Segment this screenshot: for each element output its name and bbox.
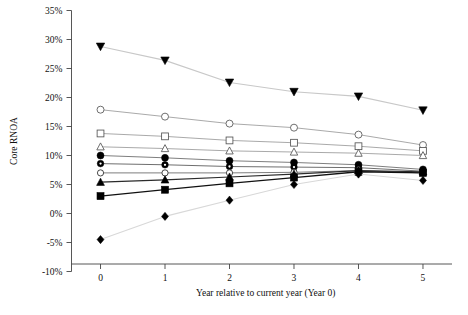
y-tick-label: 20%	[45, 93, 63, 103]
x-tick-label: 1	[163, 273, 168, 283]
data-point-marker	[355, 131, 362, 138]
data-point-marker	[162, 154, 169, 161]
x-tick-label: 3	[292, 273, 297, 283]
data-point-marker	[226, 137, 233, 144]
data-point-marker	[226, 180, 233, 187]
y-tick-label: 5%	[50, 180, 63, 190]
data-point-marker	[97, 130, 104, 137]
y-axis-title: Core RNOA	[9, 117, 19, 165]
plot-background	[0, 0, 468, 315]
x-axis-title: Year relative to current year (Year 0)	[196, 288, 335, 299]
chart-container: -10%-5%0%5%10%15%20%25%30%35% 012345 Yea…	[0, 0, 468, 315]
y-tick-label: 15%	[45, 122, 63, 132]
marker-inner-dot	[228, 165, 230, 167]
data-point-marker	[97, 170, 103, 176]
data-point-marker	[162, 133, 169, 140]
data-point-marker	[226, 120, 233, 127]
x-tick-label: 5	[421, 273, 426, 283]
data-point-marker	[419, 169, 426, 176]
marker-inner-dot	[164, 164, 166, 166]
y-tick-label: -5%	[47, 238, 63, 248]
data-point-marker	[97, 193, 104, 200]
y-tick-label: 0%	[50, 209, 63, 219]
data-point-marker	[290, 174, 297, 181]
marker-inner-dot	[99, 162, 101, 164]
data-point-marker	[162, 186, 169, 193]
data-point-marker	[162, 170, 168, 176]
y-tick-label: 10%	[45, 151, 63, 161]
y-tick-label: 35%	[45, 6, 63, 16]
data-point-marker	[97, 152, 104, 159]
y-tick-label: -10%	[42, 267, 63, 277]
y-tick-label: 30%	[45, 35, 63, 45]
x-tick-label: 0	[98, 273, 103, 283]
data-point-marker	[290, 124, 297, 131]
data-point-marker	[162, 113, 169, 120]
x-tick-label: 2	[227, 273, 232, 283]
data-point-marker	[291, 139, 298, 146]
marker-inner-dot	[293, 166, 295, 168]
y-tick-label: 25%	[45, 64, 63, 74]
x-tick-label: 4	[356, 273, 361, 283]
core-rnoa-line-chart: -10%-5%0%5%10%15%20%25%30%35% 012345 Yea…	[0, 0, 468, 315]
data-point-marker	[97, 106, 104, 113]
